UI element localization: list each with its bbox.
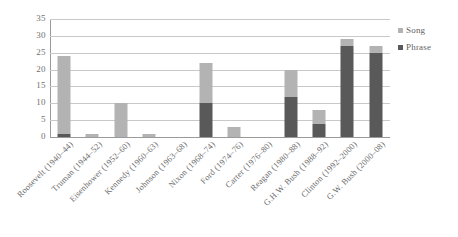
chart-legend: SongPhrase xyxy=(398,24,456,58)
bar-stack xyxy=(341,39,354,137)
bar-stack xyxy=(114,103,127,137)
y-axis-tick-label: 25 xyxy=(4,48,46,57)
bar-group xyxy=(50,19,78,137)
legend-item[interactable]: Song xyxy=(398,24,456,37)
legend-label: Song xyxy=(406,26,425,35)
bar-group xyxy=(220,19,248,137)
y-axis-tick-label: 30 xyxy=(4,31,46,40)
plot-area xyxy=(50,19,390,137)
bar-segment-song xyxy=(114,103,127,137)
bar-segment-song xyxy=(228,127,241,137)
x-axis-category-labels: Roosevelt (1940–44)Truman (1944–52)Eisen… xyxy=(50,139,390,235)
x-axis-tick-label: Reagan (1980–88) xyxy=(248,139,302,193)
bar-segment-song xyxy=(313,110,326,123)
bar-group xyxy=(192,19,220,137)
bar-stack xyxy=(199,63,212,137)
y-axis-tick-label: 20 xyxy=(4,65,46,74)
y-axis-tick-label: 10 xyxy=(4,98,46,107)
bar-segment-phrase xyxy=(341,46,354,137)
bar-group xyxy=(135,19,163,137)
y-axis-tick-labels: 05101520253035 xyxy=(0,0,46,237)
legend-swatch-song-icon xyxy=(398,28,403,33)
bar-group xyxy=(163,19,191,137)
bar-stack xyxy=(284,70,297,137)
bar-segment-phrase xyxy=(313,124,326,137)
bar-segment-phrase xyxy=(58,134,71,137)
bar-group xyxy=(333,19,361,137)
y-axis-tick-label: 35 xyxy=(4,14,46,23)
bar-chart: 05101520253035 Roosevelt (1940–44)Truman… xyxy=(0,0,458,237)
bar-stack xyxy=(86,134,99,137)
gridline xyxy=(50,137,390,138)
bar-stack xyxy=(369,46,382,137)
bar-series-group xyxy=(50,19,390,137)
bar-segment-song xyxy=(199,63,212,103)
bar-segment-song xyxy=(86,134,99,137)
bar-group xyxy=(107,19,135,137)
bar-segment-phrase xyxy=(369,53,382,137)
bar-segment-song xyxy=(284,70,297,97)
bar-stack xyxy=(228,127,241,137)
y-axis-tick-label: 5 xyxy=(4,115,46,124)
bar-group xyxy=(362,19,390,137)
bar-segment-phrase xyxy=(284,97,297,137)
y-axis-tick-label: 0 xyxy=(4,132,46,141)
y-axis-tick-label: 15 xyxy=(4,81,46,90)
bar-group xyxy=(277,19,305,137)
bar-group xyxy=(78,19,106,137)
bar-segment-phrase xyxy=(199,103,212,137)
bar-segment-song xyxy=(341,39,354,46)
bar-segment-song xyxy=(58,56,71,134)
legend-label: Phrase xyxy=(406,43,431,52)
bar-stack xyxy=(313,110,326,137)
bar-segment-song xyxy=(369,46,382,53)
legend-item[interactable]: Phrase xyxy=(398,41,456,54)
bar-segment-song xyxy=(143,134,156,137)
bar-group xyxy=(305,19,333,137)
bar-group xyxy=(248,19,276,137)
x-axis-tick-label: Truman (1944–52) xyxy=(49,139,104,194)
bar-stack xyxy=(143,134,156,137)
bar-stack xyxy=(58,56,71,137)
legend-swatch-phrase-icon xyxy=(398,45,403,50)
